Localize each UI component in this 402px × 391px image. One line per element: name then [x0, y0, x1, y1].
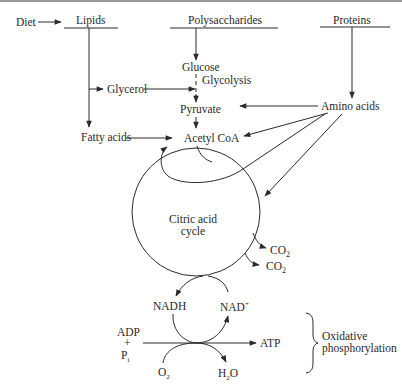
pi-label: Pi	[121, 349, 129, 364]
lipids-label: Lipids	[76, 14, 106, 27]
amino-acids-to-cycle-arrow	[265, 114, 342, 196]
diet-label: Diet	[16, 16, 37, 28]
citric-acid-cycle-circle	[132, 148, 260, 276]
co2-out-arrow-2	[245, 253, 259, 265]
nadh-to-nad-arc-arrow	[173, 314, 228, 343]
glucose-label: Glucose	[182, 61, 220, 73]
o2-path	[163, 343, 196, 363]
co2-label-1: CO2	[270, 244, 290, 259]
plus-label: +	[124, 337, 131, 349]
glycerol-label: Glycerol	[107, 83, 147, 96]
proteins-label: Proteins	[333, 14, 371, 26]
co2-label-2: CO2	[266, 260, 286, 275]
co2-out-arrow-1	[253, 233, 266, 248]
phosphorylation-label: phosphorylation	[322, 342, 397, 355]
amino-acids-inner-loop-arrow	[161, 114, 325, 183]
cycle-to-nadh-arrow	[176, 276, 203, 296]
h2o-label: H2O	[218, 367, 238, 382]
oxphos-brace	[306, 313, 318, 373]
oxidative-label: Oxidative	[322, 330, 367, 342]
glycolysis-label: Glycolysis	[202, 74, 252, 87]
amino-acids-label: Amino acids	[321, 100, 380, 112]
atp-label: ATP	[260, 337, 280, 349]
catabolism-diagram: Diet Lipids Polysaccharides Proteins Gly…	[0, 0, 402, 391]
cycle-label: cycle	[181, 225, 205, 238]
nadh-label: NADH	[153, 300, 186, 312]
o2-label: O2	[158, 366, 170, 381]
nad-label: NAD+	[220, 300, 249, 313]
polysaccharides-label: Polysaccharides	[188, 14, 263, 27]
citric-acid-label: Citric acid	[169, 213, 217, 225]
amino-acids-to-acetyl-coa-arrow	[244, 113, 328, 136]
acetyl-coa-label: Acetyl CoA	[184, 132, 240, 145]
pyruvate-label: Pyruvate	[180, 103, 221, 116]
to-h2o-arrow	[196, 343, 226, 362]
fatty-acids-label: Fatty acids	[81, 131, 132, 144]
nad-to-cycle-path	[208, 276, 228, 292]
